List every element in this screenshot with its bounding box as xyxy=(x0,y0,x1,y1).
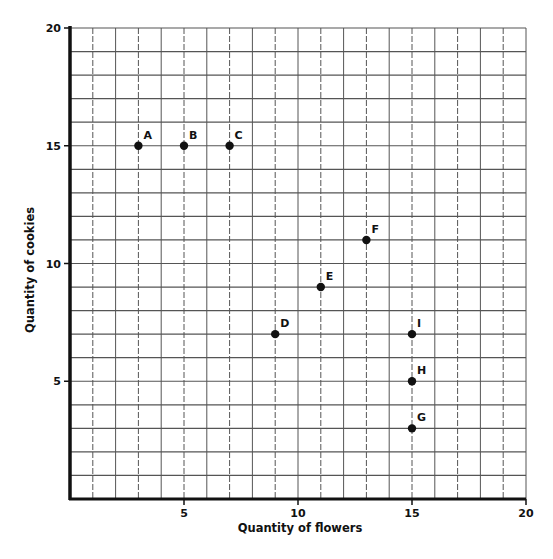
data-point-c xyxy=(225,142,233,150)
scatter-plot xyxy=(0,0,553,559)
point-label-b: B xyxy=(189,129,197,142)
x-axis-label: Quantity of flowers xyxy=(0,521,553,535)
y-tick-label: 10 xyxy=(46,257,61,270)
point-label-f: F xyxy=(371,223,379,236)
y-tick-label: 5 xyxy=(53,375,61,388)
point-label-g: G xyxy=(417,411,426,424)
data-point-d xyxy=(271,330,279,338)
point-label-a: A xyxy=(143,129,152,142)
data-point-g xyxy=(408,424,416,432)
point-label-c: C xyxy=(235,129,243,142)
point-label-d: D xyxy=(280,317,289,330)
data-point-e xyxy=(317,283,325,291)
x-tick-label: 15 xyxy=(404,507,419,520)
point-label-i: I xyxy=(417,317,421,330)
data-point-h xyxy=(408,377,416,385)
x-tick-label: 20 xyxy=(518,507,533,520)
point-label-h: H xyxy=(417,364,426,377)
point-label-e: E xyxy=(326,270,334,283)
y-tick-label: 15 xyxy=(46,139,61,152)
x-tick-label: 5 xyxy=(180,507,188,520)
data-point-a xyxy=(134,142,142,150)
data-point-f xyxy=(362,236,370,244)
data-point-i xyxy=(408,330,416,338)
y-axis-label: Quantity of cookies xyxy=(23,207,37,333)
x-tick-label: 10 xyxy=(290,507,305,520)
y-tick-label: 20 xyxy=(46,22,61,35)
data-point-b xyxy=(180,142,188,150)
